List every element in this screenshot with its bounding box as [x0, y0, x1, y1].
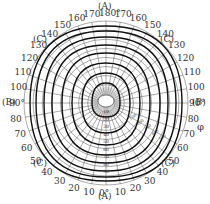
angle-label: 120 [21, 54, 38, 63]
svg-text:70: 70 [103, 154, 109, 159]
angle-label: 60 [21, 144, 32, 153]
angle-label: 20 [130, 184, 141, 193]
angle-label: 110 [14, 68, 31, 77]
angle-label: 20 [68, 184, 79, 193]
angle-label: 170 [83, 10, 100, 19]
svg-text:10: 10 [103, 109, 109, 114]
angle-label: 50 [30, 157, 41, 166]
angle-label: 80 [10, 115, 21, 124]
angle-label: 40 [41, 168, 52, 177]
angle-label: 130 [30, 41, 47, 50]
angle-label: 60 [177, 144, 188, 153]
angle-label: 100 [10, 83, 27, 92]
angle-label: 10 [83, 188, 94, 197]
svg-text:400: 400 [150, 128, 159, 137]
svg-text:30: 30 [103, 124, 109, 129]
angle-label: 0° [99, 189, 109, 198]
angle-label: 110 [184, 68, 201, 77]
angle-label: 90° [9, 99, 25, 108]
angle-label: 70 [184, 130, 195, 139]
angle-label: 180° [99, 9, 121, 18]
angle-label: 100 [188, 83, 205, 92]
svg-text:20: 20 [103, 117, 109, 122]
angle-label: 140 [41, 30, 58, 39]
svg-text:90: 90 [103, 169, 109, 174]
svg-text:40: 40 [103, 132, 109, 137]
svg-text:300: 300 [143, 123, 152, 132]
angle-label: 70 [14, 130, 25, 139]
svg-text:60: 60 [103, 147, 109, 152]
svg-text:500: 500 [158, 133, 167, 142]
angle-label: 40 [157, 168, 168, 177]
angle-label: 130 [168, 41, 185, 50]
angle-label: 10 [115, 188, 126, 197]
angle-label: 50 [168, 157, 179, 166]
svg-text:80: 80 [103, 162, 109, 167]
angle-label: 30 [54, 177, 65, 186]
angle-label: 90° [189, 99, 205, 108]
polar-diagram: 102030405060708090100200300400500 (A) (A… [0, 0, 210, 204]
angle-label: 30 [144, 177, 155, 186]
angle-label: 120 [177, 54, 194, 63]
svg-text:50: 50 [103, 139, 109, 144]
angle-label: 80 [188, 115, 199, 124]
polar-grid: 102030405060708090100200300400500 [0, 0, 210, 204]
angle-label: 140 [157, 30, 174, 39]
